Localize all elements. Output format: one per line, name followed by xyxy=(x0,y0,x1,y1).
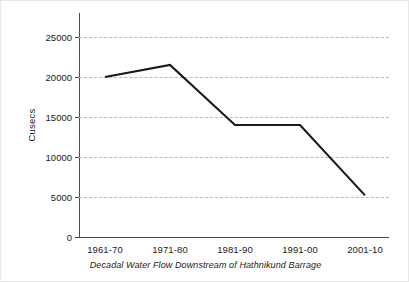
x-tick-label: 1981-90 xyxy=(217,244,253,255)
chart-figure: Cusecs 0500010000150002000025000 1961-70… xyxy=(0,0,409,282)
y-tick-label: 25000 xyxy=(46,32,72,43)
data-series-line xyxy=(79,13,389,237)
x-tick-label: 1971-80 xyxy=(152,244,188,255)
y-tick-mark xyxy=(75,237,79,238)
y-tick-label: 0 xyxy=(67,232,72,243)
series-polyline xyxy=(105,65,365,195)
plot-area: 0500010000150002000025000 1961-701971-80… xyxy=(79,13,389,237)
y-axis-title: Cusecs xyxy=(23,13,41,237)
x-tick-label: 1961-70 xyxy=(87,244,123,255)
y-tick-label: 5000 xyxy=(51,192,72,203)
x-tick-label: 1991-00 xyxy=(282,244,318,255)
x-axis-line xyxy=(79,237,389,238)
x-tick-label: 2001-10 xyxy=(347,244,383,255)
y-tick-label: 20000 xyxy=(46,72,72,83)
y-tick-label: 10000 xyxy=(46,152,72,163)
y-tick-label: 15000 xyxy=(46,112,72,123)
chart-caption: Decadal Water Flow Downstream of Hathnik… xyxy=(1,260,409,270)
